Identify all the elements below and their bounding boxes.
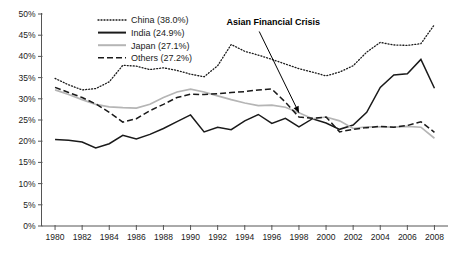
y-tick-label: 20% bbox=[18, 136, 35, 146]
x-tick-label: 1996 bbox=[262, 232, 281, 242]
annotation-text: Asian Financial Crisis bbox=[226, 17, 320, 27]
series-line-others bbox=[55, 87, 434, 132]
y-tick-label: 50% bbox=[18, 9, 35, 19]
x-tick-label: 1998 bbox=[289, 232, 308, 242]
annotation-arrow-line bbox=[259, 31, 299, 112]
chart-annotation: Asian Financial Crisis bbox=[226, 17, 320, 112]
series-line-japan bbox=[55, 89, 434, 138]
x-tick-label: 2008 bbox=[425, 232, 444, 242]
y-tick-label: 25% bbox=[18, 115, 35, 125]
legend-label-others: Others (27.2%) bbox=[131, 53, 192, 63]
y-tick-label: 35% bbox=[18, 73, 35, 83]
x-tick-label: 1990 bbox=[181, 232, 200, 242]
x-tick-label: 1992 bbox=[208, 232, 227, 242]
x-tick-label: 2002 bbox=[344, 232, 363, 242]
x-tick-label: 1980 bbox=[46, 232, 65, 242]
y-axis: 0%5%10%15%20%25%30%35%40%45%50% bbox=[18, 9, 42, 231]
x-tick-label: 1986 bbox=[127, 232, 146, 242]
x-tick-label: 2004 bbox=[371, 232, 390, 242]
y-tick-label: 45% bbox=[18, 30, 35, 40]
series-lines bbox=[55, 25, 434, 148]
y-tick-label: 30% bbox=[18, 94, 35, 104]
legend-label-china: China (38.0%) bbox=[131, 15, 189, 25]
y-tick-label: 0% bbox=[23, 221, 36, 231]
x-tick-label: 1982 bbox=[73, 232, 92, 242]
y-tick-label: 5% bbox=[23, 200, 36, 210]
y-tick-label: 40% bbox=[18, 51, 35, 61]
x-tick-label: 2000 bbox=[317, 232, 336, 242]
legend-label-india: India (24.9%) bbox=[131, 28, 185, 38]
x-tick-label: 1994 bbox=[235, 232, 254, 242]
legend-label-japan: Japan (27.1%) bbox=[131, 41, 190, 51]
x-tick-label: 1984 bbox=[100, 232, 119, 242]
y-tick-label: 15% bbox=[18, 157, 35, 167]
x-axis: 1980198219841986198819901992199419961998… bbox=[42, 225, 449, 242]
chart-legend: China (38.0%)India (24.9%)Japan (27.1%)O… bbox=[98, 15, 192, 63]
chart-container: 0%5%10%15%20%25%30%35%40%45%50% 19801982… bbox=[0, 0, 461, 257]
line-chart: 0%5%10%15%20%25%30%35%40%45%50% 19801982… bbox=[0, 0, 461, 257]
y-tick-label: 10% bbox=[18, 179, 35, 189]
x-tick-label: 2006 bbox=[398, 232, 417, 242]
x-tick-label: 1988 bbox=[154, 232, 173, 242]
